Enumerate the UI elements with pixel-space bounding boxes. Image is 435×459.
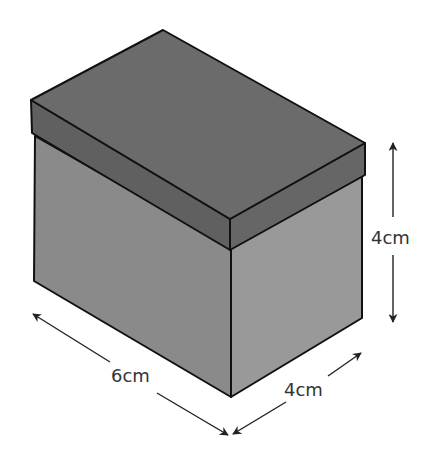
width-label: 4cm bbox=[284, 379, 323, 400]
length-arrow-right-icon bbox=[157, 393, 228, 435]
height-label: 4cm bbox=[371, 227, 410, 248]
length-label: 6cm bbox=[111, 365, 150, 386]
width-arrow-left-icon bbox=[233, 402, 286, 434]
box-diagram: 4cm 6cm 4cm bbox=[0, 0, 435, 459]
width-arrow-right-icon bbox=[328, 353, 361, 376]
length-arrow-left-icon bbox=[33, 314, 110, 362]
height-dimension: 4cm bbox=[371, 143, 410, 322]
